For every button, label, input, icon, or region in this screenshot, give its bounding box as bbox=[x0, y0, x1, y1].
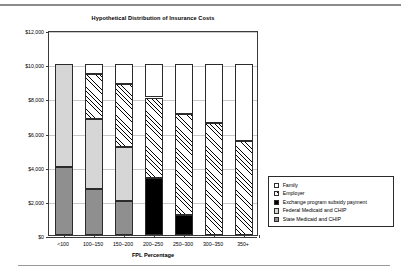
bar-segment bbox=[205, 64, 223, 123]
legend-label: Federal Medicaid and CHIP bbox=[283, 208, 347, 213]
legend-item: Employer bbox=[274, 190, 393, 199]
y-axis-label: $12,000 bbox=[25, 29, 44, 35]
y-axis-label: $6,000 bbox=[28, 132, 44, 138]
chart-title: Hypothetical Distribution of Insurance C… bbox=[48, 15, 258, 21]
bar-stack bbox=[85, 30, 103, 235]
bar-segment bbox=[115, 64, 133, 84]
bar-segment bbox=[85, 189, 103, 235]
bar-segment bbox=[145, 64, 163, 97]
y-axis-tick bbox=[46, 32, 49, 33]
y-axis-tick bbox=[46, 100, 49, 101]
bar-segment bbox=[175, 114, 193, 215]
bar-segment bbox=[115, 201, 133, 235]
y-axis-label: $2,000 bbox=[28, 200, 44, 206]
legend-item: Family bbox=[274, 181, 393, 190]
x-axis-title: FPL Percentage bbox=[48, 252, 258, 258]
bar-segment bbox=[55, 167, 73, 235]
bar-segment bbox=[205, 123, 223, 235]
bar-stack bbox=[175, 30, 193, 235]
x-axis-tick bbox=[184, 235, 185, 238]
bar-segment bbox=[115, 147, 133, 201]
bar-stack bbox=[235, 30, 253, 235]
bar-segment bbox=[85, 74, 103, 118]
legend-swatch-icon bbox=[274, 183, 279, 188]
bar-stack bbox=[115, 30, 133, 235]
bar-segment bbox=[55, 64, 73, 167]
legend-label: State Medicaid and CHIP bbox=[283, 217, 341, 222]
legend-swatch-icon bbox=[274, 217, 279, 222]
bar-segment bbox=[115, 84, 133, 147]
x-axis-tick bbox=[64, 235, 65, 238]
x-axis-tick bbox=[244, 235, 245, 238]
gridline bbox=[49, 237, 257, 238]
x-axis-tick bbox=[154, 235, 155, 238]
y-axis-tick bbox=[46, 237, 49, 238]
x-axis-tick bbox=[124, 235, 125, 238]
y-axis-tick bbox=[46, 169, 49, 170]
page-rule-top bbox=[0, 4, 401, 6]
legend-label: Family bbox=[283, 183, 298, 188]
legend-swatch-icon bbox=[274, 200, 279, 205]
y-axis-tick bbox=[46, 203, 49, 204]
y-axis-tick bbox=[46, 135, 49, 136]
bar-stack bbox=[145, 30, 163, 235]
legend-swatch-icon bbox=[274, 191, 279, 196]
bar-segment bbox=[85, 119, 103, 189]
legend-item: Exchange program subsidy payment bbox=[274, 198, 393, 207]
bar-segment bbox=[235, 141, 253, 235]
legend-label: Exchange program subsidy payment bbox=[283, 200, 367, 205]
bar-stack bbox=[205, 30, 223, 235]
x-axis-tick bbox=[94, 235, 95, 238]
y-axis-label: $0 bbox=[38, 234, 44, 240]
y-axis-tick bbox=[46, 66, 49, 67]
y-axis-label: $10,000 bbox=[25, 63, 44, 69]
bar-segment bbox=[145, 98, 163, 178]
plot-area: $0$2,000$4,000$6,000$8,000$10,000$12,000 bbox=[48, 31, 258, 236]
legend-swatch-icon bbox=[274, 208, 279, 213]
bar-stack bbox=[55, 30, 73, 235]
plot-inner: $0$2,000$4,000$6,000$8,000$10,000$12,000 bbox=[49, 32, 257, 235]
bar-segment bbox=[85, 64, 103, 74]
bar-segment bbox=[175, 64, 193, 114]
y-axis-label: $4,000 bbox=[28, 166, 44, 172]
bar-segment bbox=[235, 64, 253, 141]
bar-segment bbox=[145, 178, 163, 235]
x-axis-label: 350+ bbox=[223, 241, 263, 247]
y-axis-label: $8,000 bbox=[28, 97, 44, 103]
x-axis-tick bbox=[259, 235, 260, 238]
x-axis-tick bbox=[214, 235, 215, 238]
legend-item: Federal Medicaid and CHIP bbox=[274, 207, 393, 216]
legend-label: Employer bbox=[283, 191, 305, 196]
bar-segment bbox=[175, 215, 193, 236]
page-rule-bottom bbox=[18, 265, 390, 266]
chart-legend: FamilyEmployerExchange program subsidy p… bbox=[268, 176, 394, 227]
legend-item: State Medicaid and CHIP bbox=[274, 215, 393, 224]
